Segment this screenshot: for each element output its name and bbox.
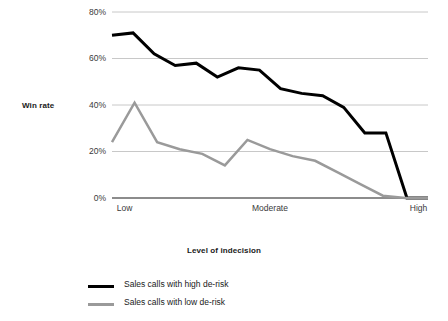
x-tick-label: Low <box>117 203 133 213</box>
y-tick-label: 80% <box>72 8 106 17</box>
legend-item[interactable]: Sales calls with low de-risk <box>88 296 348 314</box>
x-axis-title: Level of indecision <box>0 246 448 255</box>
y-tick-label: 40% <box>72 101 106 110</box>
legend-item-label: Sales calls with high de-risk <box>124 279 228 289</box>
legend-item[interactable]: Sales calls with high de-risk <box>88 278 348 296</box>
y-tick-label: 0% <box>72 194 106 203</box>
plot-svg <box>112 12 428 198</box>
line-chart: Win rate 80% 60% 40% 20% 0% Low Moderate… <box>0 0 448 321</box>
x-tick-label: Moderate <box>252 203 288 213</box>
y-axis-title: Win rate <box>22 101 54 110</box>
legend-swatch-line-icon <box>88 285 114 288</box>
y-axis-tick-labels: 80% 60% 40% 20% 0% <box>70 0 106 210</box>
plot-area <box>112 12 428 198</box>
legend-swatch-line-icon <box>88 303 114 306</box>
gridlines <box>112 12 428 198</box>
series-lines <box>112 33 428 198</box>
series-line-low-derisk <box>112 103 428 198</box>
legend-item-label: Sales calls with low de-risk <box>124 297 225 307</box>
y-tick-label: 20% <box>72 147 106 156</box>
chart-legend: Sales calls with high de-risk Sales call… <box>88 278 348 314</box>
y-tick-label: 60% <box>72 54 106 63</box>
series-line-high-derisk <box>112 33 428 198</box>
x-tick-label: High <box>410 203 427 213</box>
